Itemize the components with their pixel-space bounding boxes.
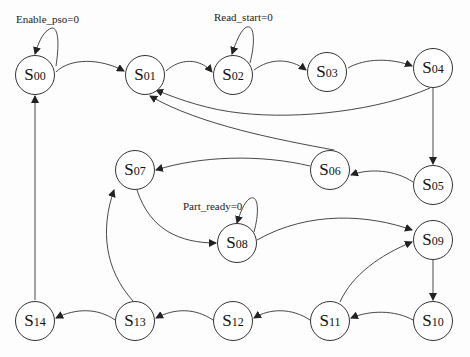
label-enable-pso: Enable_pso=0 — [16, 13, 79, 25]
state-number: 09 — [432, 234, 444, 249]
edge-s12-s13 — [156, 311, 213, 320]
edge-s13-s14 — [56, 311, 115, 320]
state-prefix: S — [316, 62, 325, 82]
edge-s11-s09 — [340, 242, 412, 302]
state-prefix: S — [24, 311, 33, 331]
edge-s01-s02 — [166, 61, 212, 72]
state-prefix: S — [422, 58, 431, 78]
state-s04: S04 — [413, 48, 453, 88]
state-number: 13 — [134, 315, 146, 330]
edge-s13-s07 — [106, 190, 133, 301]
state-number: 03 — [326, 66, 338, 81]
state-diagram: Enable_pso=0 Read_start=0 Part_ready=0 S… — [0, 0, 470, 357]
state-number: 06 — [329, 164, 341, 179]
edge-s06-s07 — [156, 158, 310, 170]
state-number: 08 — [236, 237, 248, 252]
state-s03: S03 — [307, 52, 347, 92]
edge-s02-s03 — [254, 61, 306, 70]
state-prefix: S — [422, 311, 431, 331]
state-number: 14 — [34, 315, 46, 330]
state-number: 04 — [432, 62, 444, 77]
state-prefix: S — [222, 311, 231, 331]
state-s13: S13 — [115, 301, 155, 341]
state-prefix: S — [226, 233, 235, 253]
state-prefix: S — [319, 311, 328, 331]
state-s08: S08 — [217, 223, 257, 263]
edge-s04-s01 — [156, 88, 430, 115]
state-number: 00 — [34, 69, 46, 84]
state-s10: S10 — [413, 301, 453, 341]
state-s14: S14 — [15, 301, 55, 341]
state-prefix: S — [422, 230, 431, 250]
edge-s06-s01 — [150, 96, 334, 150]
state-number: 12 — [232, 315, 244, 330]
edge-s05-s06 — [351, 171, 413, 182]
state-prefix: S — [422, 175, 431, 195]
edge-s03-s04 — [348, 60, 412, 68]
state-s00: S00 — [15, 55, 55, 95]
state-number: 11 — [329, 315, 341, 330]
edge-s11-s12 — [254, 311, 310, 320]
state-s12: S12 — [213, 301, 253, 341]
state-prefix: S — [24, 65, 33, 85]
state-prefix: S — [124, 160, 133, 180]
state-s11: S11 — [310, 301, 350, 341]
state-s09: S09 — [413, 220, 453, 260]
state-s06: S06 — [310, 150, 350, 190]
state-number: 02 — [232, 69, 244, 84]
edge-s10-s11 — [351, 312, 413, 320]
state-number: 05 — [432, 179, 444, 194]
edge-s00-s01 — [56, 61, 124, 72]
state-s02: S02 — [213, 55, 253, 95]
state-prefix: S — [124, 311, 133, 331]
edge-s07-s08 — [137, 190, 216, 243]
state-prefix: S — [222, 65, 231, 85]
label-part-ready: Part_ready=0 — [183, 200, 242, 212]
state-s07: S07 — [115, 150, 155, 190]
state-s01: S01 — [125, 55, 165, 95]
edge-s08-s09 — [257, 218, 412, 240]
state-number: 01 — [144, 69, 156, 84]
state-number: 07 — [134, 164, 146, 179]
state-prefix: S — [319, 160, 328, 180]
state-s05: S05 — [413, 165, 453, 205]
state-prefix: S — [134, 65, 143, 85]
state-number: 10 — [432, 315, 444, 330]
label-read-start: Read_start=0 — [214, 11, 273, 23]
